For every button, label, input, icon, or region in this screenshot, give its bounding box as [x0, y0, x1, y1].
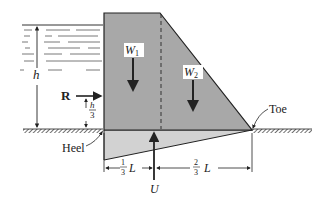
l2-frac-den: 3 — [194, 168, 198, 177]
l1-label: L — [128, 161, 136, 175]
h-label: h — [33, 67, 40, 82]
l2-label: L — [203, 161, 211, 175]
dam-body — [104, 13, 252, 130]
dam-diagram: h R h 3 W1 W2 U Heel Toe 1 3 L 2 3 L — [0, 0, 325, 204]
l1-frac-num: 1 — [121, 158, 125, 167]
u-label: U — [150, 182, 160, 196]
l2-frac-num: 2 — [194, 158, 198, 167]
ground-left — [23, 129, 103, 133]
water-region — [20, 25, 103, 70]
ground-right — [252, 129, 312, 133]
h3-den: 3 — [90, 110, 95, 120]
heel-label: Heel — [62, 141, 85, 155]
r-label: R — [61, 88, 71, 103]
h3-num: h — [90, 100, 95, 110]
toe-label: Toe — [269, 102, 287, 116]
uplift-pressure-triangle — [104, 130, 252, 160]
l1-frac-den: 3 — [121, 168, 125, 177]
